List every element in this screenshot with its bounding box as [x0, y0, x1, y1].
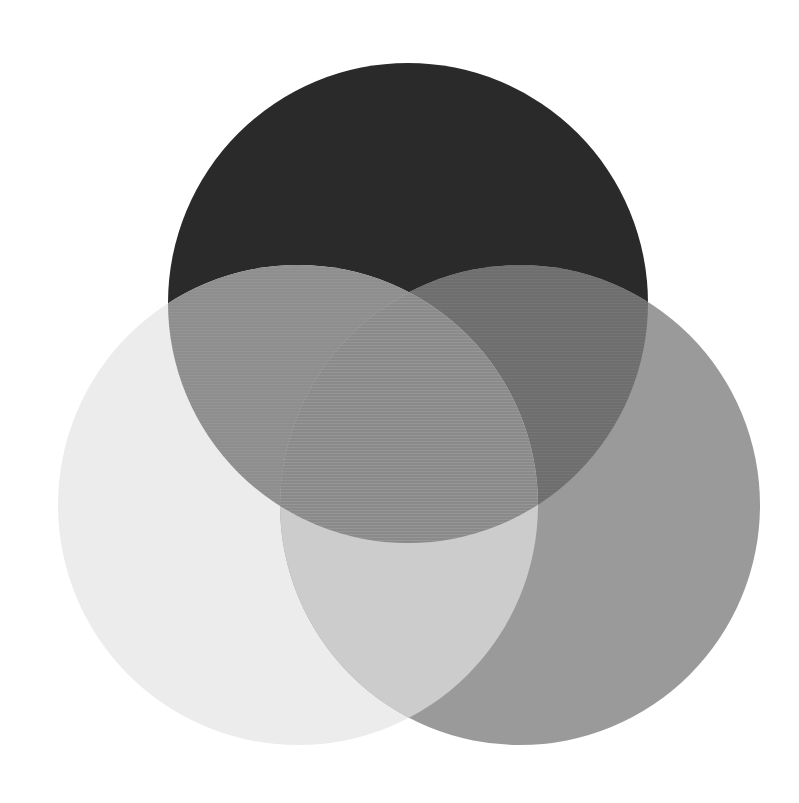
venn-diagram-canvas [0, 0, 799, 803]
venn-diagram-svg [0, 0, 799, 803]
